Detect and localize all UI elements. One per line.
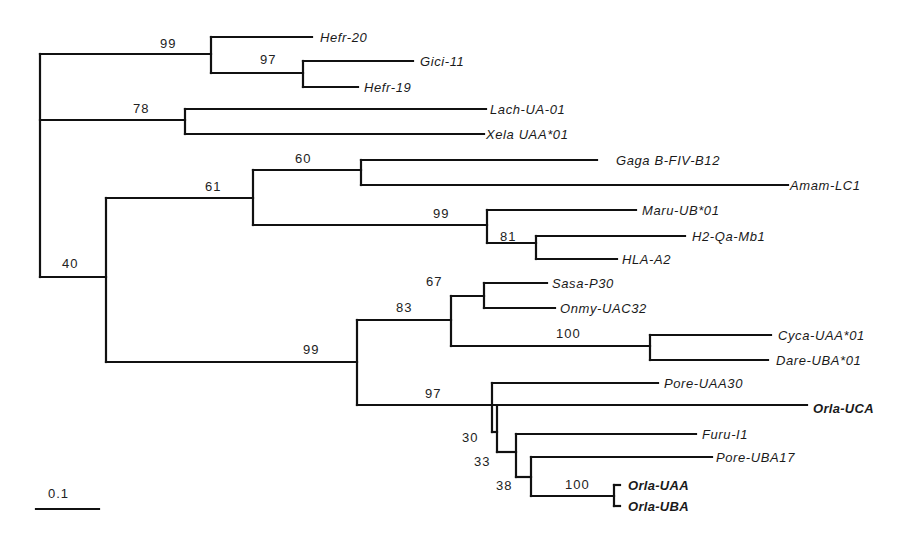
taxon-labels: Hefr-20Gici-11Hefr-19Lach-UA-01Xela UAA*…: [320, 30, 874, 514]
scale-bar: 0.1: [36, 486, 99, 509]
support-value: 30: [462, 430, 478, 445]
phylogenetic-tree: 999778606199814067831009997303338100 Hef…: [0, 0, 913, 545]
support-value: 81: [500, 229, 516, 244]
support-value: 40: [62, 256, 78, 271]
support-value: 99: [303, 342, 319, 357]
taxon-label-orlauaa: Orla-UAA: [628, 478, 689, 493]
taxon-label-gici11: Gici-11: [420, 54, 464, 69]
support-value: 100: [556, 326, 581, 341]
taxon-label-xela: Xela UAA*01: [485, 127, 568, 142]
support-value: 97: [260, 52, 276, 67]
support-value: 67: [426, 274, 442, 289]
support-value: 100: [565, 477, 590, 492]
taxon-label-dare: Dare-UBA*01: [776, 353, 861, 368]
taxon-label-hla: HLA-A2: [622, 252, 671, 267]
taxon-label-maru: Maru-UB*01: [642, 203, 720, 218]
support-value: 38: [496, 478, 512, 493]
taxon-label-lach: Lach-UA-01: [490, 102, 565, 117]
taxon-label-orlauca: Orla-UCA: [813, 401, 874, 416]
taxon-label-poreuaa: Pore-UAA30: [664, 376, 743, 391]
taxon-label-orlauba: Orla-UBA: [628, 499, 689, 514]
taxon-label-furu: Furu-I1: [702, 427, 748, 442]
support-value: 99: [433, 206, 449, 221]
taxon-label-onmy: Onmy-UAC32: [560, 301, 647, 316]
taxon-label-hefr20: Hefr-20: [320, 30, 367, 45]
support-value: 99: [160, 36, 176, 51]
taxon-label-poreuba: Pore-UBA17: [716, 450, 795, 465]
taxon-label-cyca: Cyca-UAA*01: [778, 328, 865, 343]
taxon-label-gaga: Gaga B-FIV-B12: [616, 153, 720, 168]
tree-branches: [40, 37, 807, 506]
taxon-label-sasa: Sasa-P30: [552, 276, 614, 291]
support-value: 83: [396, 300, 412, 315]
support-value: 33: [474, 454, 490, 469]
taxon-label-amam: Amam-LC1: [789, 178, 861, 193]
support-value: 60: [295, 151, 311, 166]
scale-bar-label: 0.1: [48, 486, 69, 501]
support-value: 61: [205, 179, 221, 194]
taxon-label-h2qa: H2-Qa-Mb1: [692, 229, 765, 244]
support-value: 78: [133, 101, 149, 116]
taxon-label-hefr19: Hefr-19: [364, 80, 411, 95]
support-value: 97: [425, 386, 441, 401]
